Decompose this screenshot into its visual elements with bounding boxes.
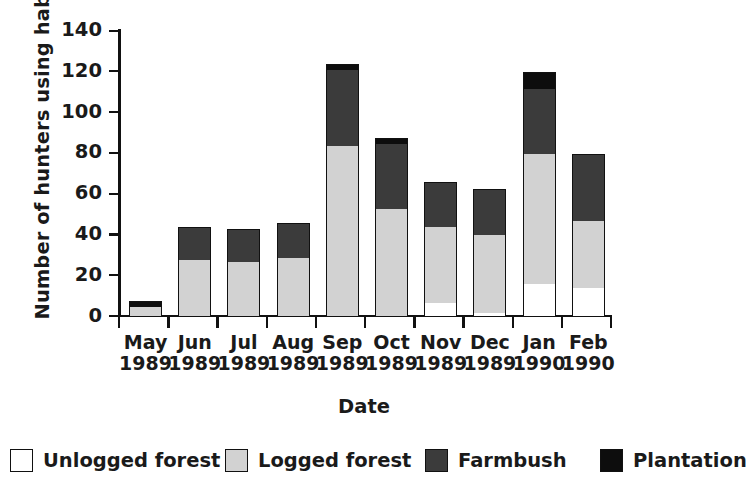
x-label-year: 1990 [554, 353, 622, 374]
bar-jun-1989[interactable] [178, 227, 211, 317]
x-axis-tick [118, 315, 120, 328]
y-axis-tick [109, 233, 118, 235]
plot-area: 020406080100120140 [118, 29, 610, 317]
bar-segment-unlogged [523, 284, 556, 317]
x-axis-tick [413, 315, 415, 328]
x-label-month: Feb [554, 332, 622, 353]
bar-jul-1989[interactable] [227, 229, 260, 317]
y-axis-tick [109, 111, 118, 113]
bar-segment-farmbush [424, 182, 457, 227]
bar-segment-logged [227, 262, 260, 317]
y-axis-tick [109, 30, 118, 32]
y-axis-tick-label: 120 [42, 61, 102, 81]
bar-segment-logged [523, 154, 556, 285]
legend-swatch-plantation [600, 449, 623, 472]
legend-label: Farmbush [458, 449, 567, 472]
bar-segment-farmbush [523, 89, 556, 154]
legend-label: Logged forest [258, 449, 411, 472]
x-axis-title: Date [118, 395, 610, 418]
bar-segment-logged [129, 307, 162, 317]
legend-item-logged[interactable]: Logged forest [225, 449, 411, 472]
legend-swatch-logged [225, 449, 248, 472]
x-axis-tick [266, 315, 268, 328]
x-axis-tick [315, 315, 317, 328]
y-axis-line [118, 29, 121, 317]
y-axis-tick [109, 193, 118, 195]
bar-segment-logged [572, 221, 605, 288]
x-axis-tick [364, 315, 366, 328]
y-axis-tick [109, 152, 118, 154]
y-axis-tick-label: 60 [42, 183, 102, 203]
bar-segment-farmbush [326, 70, 359, 145]
x-axis-tick [167, 315, 169, 328]
legend-item-plantation[interactable]: Plantation [600, 449, 747, 472]
x-axis-tick [462, 315, 464, 328]
bar-jan-1990[interactable] [523, 72, 556, 317]
bar-segment-farmbush [572, 154, 605, 221]
legend-item-unlogged[interactable]: Unlogged forest [10, 449, 220, 472]
legend-swatch-unlogged [10, 449, 33, 472]
bar-segment-farmbush [375, 144, 408, 209]
x-axis-tick [216, 315, 218, 328]
legend-item-farmbush[interactable]: Farmbush [425, 449, 567, 472]
bar-segment-unlogged [473, 313, 506, 317]
bar-segment-farmbush [227, 229, 260, 262]
y-axis-tick-label: 20 [42, 265, 102, 285]
chart-legend: Unlogged forestLogged forestFarmbushPlan… [10, 443, 716, 477]
y-axis-tick [109, 70, 118, 72]
bar-aug-1989[interactable] [277, 223, 310, 317]
bar-segment-plantation [523, 72, 556, 88]
legend-swatch-farmbush [425, 449, 448, 472]
x-axis-tick [610, 315, 612, 328]
bar-segment-farmbush [473, 189, 506, 236]
bar-segment-logged [326, 146, 359, 317]
bar-segment-logged [424, 227, 457, 302]
bar-segment-unlogged [572, 288, 605, 317]
bar-segment-logged [277, 258, 310, 317]
bar-sep-1989[interactable] [326, 64, 359, 317]
x-axis-tick [561, 315, 563, 328]
y-axis-tick-label: 0 [42, 306, 102, 326]
y-axis-tick-label: 100 [42, 102, 102, 122]
bar-segment-farmbush [178, 227, 211, 260]
y-axis-tick [109, 274, 118, 276]
bar-segment-logged [473, 235, 506, 312]
bar-oct-1989[interactable] [375, 138, 408, 317]
bar-segment-unlogged [424, 303, 457, 317]
y-axis-tick-label: 140 [42, 20, 102, 40]
y-axis-tick-label: 80 [42, 142, 102, 162]
bar-dec-1989[interactable] [473, 189, 506, 317]
y-axis-tick-label: 40 [42, 224, 102, 244]
bar-feb-1990[interactable] [572, 154, 605, 317]
y-axis-tick [109, 315, 118, 317]
bar-may-1989[interactable] [129, 301, 162, 317]
x-axis-tick [512, 315, 514, 328]
bar-segment-logged [375, 209, 408, 317]
bar-nov-1989[interactable] [424, 182, 457, 317]
bar-segment-farmbush [277, 223, 310, 258]
x-axis-tick-label: Feb1990 [554, 332, 622, 374]
legend-label: Unlogged forest [43, 449, 220, 472]
legend-label: Plantation [633, 449, 747, 472]
bar-segment-logged [178, 260, 211, 317]
